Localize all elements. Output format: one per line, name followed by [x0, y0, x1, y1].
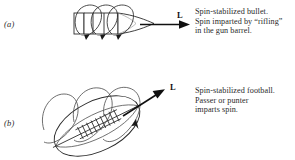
angular-momentum-figure: (a) [0, 0, 295, 160]
caption-bullet: Spin-stabilized bullet. Spin imparted by… [195, 7, 293, 36]
panel-label-b: (b) [4, 118, 15, 128]
bullet-drawing [74, 13, 154, 34]
angular-momentum-label-b: L [170, 82, 176, 92]
bullet-spin-arrowheads [80, 34, 123, 40]
angular-momentum-label-a: L [177, 10, 183, 20]
caption-football: Spin-stabilized football. Passer or punt… [195, 86, 293, 115]
